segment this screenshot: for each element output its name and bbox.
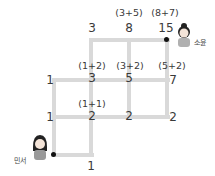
node-expression: (1+2) — [78, 61, 105, 71]
node-expression: (1+1) — [78, 99, 105, 109]
start-point-dot — [51, 152, 56, 157]
node-value: 2 — [169, 111, 177, 123]
node-value: 7 — [169, 74, 177, 86]
grid-line-low — [53, 115, 170, 119]
person-start-icon — [31, 133, 49, 161]
node-value: 2 — [88, 110, 96, 122]
grid-line-mid — [53, 78, 170, 82]
start-person-name: 민서 — [14, 155, 26, 165]
end-point-dot — [164, 37, 169, 42]
node-value: 1 — [87, 160, 95, 172]
node-value: 15 — [158, 22, 173, 34]
end-person-name: 소윤 — [194, 37, 206, 47]
node-value: 2 — [125, 110, 133, 122]
node-expression: (5+2) — [158, 61, 185, 71]
node-value: 1 — [46, 74, 54, 86]
node-value: 8 — [125, 22, 133, 34]
person-end-icon — [174, 22, 194, 48]
node-expression: (8+7) — [151, 8, 178, 18]
grid-line-bottom — [53, 153, 94, 157]
node-value: 1 — [46, 111, 54, 123]
node-value: 3 — [88, 22, 96, 34]
node-expression: (3+5) — [115, 8, 142, 18]
node-expression: (3+2) — [116, 61, 143, 71]
node-value: 3 — [88, 72, 96, 84]
node-value: 5 — [125, 72, 133, 84]
